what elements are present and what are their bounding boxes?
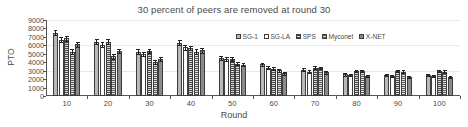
bar-group <box>343 20 370 96</box>
x-tick-label: 50 <box>228 99 236 108</box>
bar <box>94 42 99 96</box>
error-bar-cap <box>236 65 240 66</box>
x-tick-label: 100 <box>433 99 446 108</box>
y-tick-label: 8000 <box>28 25 44 32</box>
bar <box>313 68 318 96</box>
bar <box>136 52 141 96</box>
plot-area <box>46 20 460 96</box>
error-bar-cap <box>407 76 411 77</box>
x-tick-mark <box>460 96 461 99</box>
error-bar-cap <box>277 69 281 70</box>
error-bar-cap <box>159 61 163 62</box>
error-bar-cap <box>355 72 359 73</box>
bar-group <box>177 20 204 96</box>
legend-swatch-icon <box>236 34 241 39</box>
error-bar-cap <box>54 30 58 31</box>
legend-item[interactable]: SG-LA <box>264 33 290 40</box>
error-bar-cap <box>313 69 317 70</box>
error-bar-cap <box>366 75 370 76</box>
bar <box>147 51 152 96</box>
error-bar-cap <box>385 76 389 77</box>
error-bar-cap <box>65 41 69 42</box>
error-bar-cap <box>313 66 317 67</box>
error-bar-cap <box>437 72 441 73</box>
error-bar-cap <box>101 42 105 43</box>
error-bar-cap <box>277 72 281 73</box>
error-bar-cap <box>225 57 229 58</box>
error-bar-cap <box>70 54 74 55</box>
error-bar-cap <box>142 56 146 57</box>
bar <box>111 56 116 96</box>
y-tick-mark <box>43 28 46 29</box>
y-tick-label: 1000 <box>28 84 44 91</box>
legend-item[interactable]: SG-1 <box>236 33 258 40</box>
bar <box>59 40 64 96</box>
error-bar-cap <box>230 57 234 58</box>
error-bar-cap <box>236 62 240 63</box>
bar <box>395 71 400 96</box>
legend-label: Myconet <box>328 33 353 40</box>
bar <box>384 75 389 96</box>
bar <box>153 62 158 96</box>
error-bar-cap <box>343 73 347 74</box>
error-bar-cap <box>449 78 453 79</box>
error-bar-cap <box>189 50 193 51</box>
x-tick-label: 60 <box>269 99 277 108</box>
bar-group <box>301 20 328 96</box>
bar <box>194 52 199 96</box>
error-bar-cap <box>261 66 265 67</box>
y-tick-label: 3000 <box>28 67 44 74</box>
bar <box>64 38 69 96</box>
error-bar-cap <box>54 35 58 36</box>
error-bar-cap <box>308 70 312 71</box>
y-axis-line <box>46 20 47 96</box>
error-bar-cap <box>148 53 152 54</box>
error-bar-cap <box>432 75 436 76</box>
error-bar-cap <box>65 36 69 37</box>
error-bar-cap <box>189 46 193 47</box>
error-bar-cap <box>266 69 270 70</box>
error-bar-cap <box>308 73 312 74</box>
error-bar-cap <box>242 63 246 64</box>
error-bar-cap <box>443 70 447 71</box>
legend-item[interactable]: SPS <box>296 33 316 40</box>
error-bar-cap <box>159 57 163 58</box>
bar <box>53 33 58 96</box>
x-tick-label: 90 <box>394 99 402 108</box>
legend-item[interactable]: Myconet <box>322 33 353 40</box>
x-tick-label: 10 <box>62 99 70 108</box>
error-bar-cap <box>136 54 140 55</box>
bar <box>266 68 271 96</box>
error-bar-cap <box>142 52 146 53</box>
error-bar-cap <box>266 66 270 67</box>
bar-group <box>219 20 246 96</box>
x-axis-label: Round <box>0 110 468 120</box>
bar <box>360 71 365 96</box>
error-bar-cap <box>319 67 323 68</box>
error-bar-cap <box>76 42 80 43</box>
error-bar-cap <box>426 76 430 77</box>
error-bar-cap <box>283 75 287 76</box>
error-bar-cap <box>396 70 400 71</box>
bar <box>318 68 323 96</box>
legend-item[interactable]: X-NET <box>359 33 385 40</box>
bar <box>448 77 453 96</box>
bar <box>158 59 163 96</box>
error-bar-cap <box>95 44 99 45</box>
bar <box>307 72 312 96</box>
error-bar-cap <box>437 70 441 71</box>
legend-swatch-icon <box>322 34 327 39</box>
error-bar-cap <box>195 49 199 50</box>
bar <box>426 75 431 96</box>
error-bar-cap <box>200 53 204 54</box>
bar <box>390 76 395 96</box>
y-tick-mark <box>43 79 46 80</box>
y-tick-label: 9000 <box>28 17 44 24</box>
legend-label: X-NET <box>366 33 386 40</box>
bar <box>141 54 146 96</box>
error-bar-cap <box>59 42 63 43</box>
bar <box>241 65 246 96</box>
y-tick-mark <box>43 54 46 55</box>
bar <box>431 76 436 96</box>
chart-title: 30 percent of peers are removed at round… <box>0 4 468 15</box>
